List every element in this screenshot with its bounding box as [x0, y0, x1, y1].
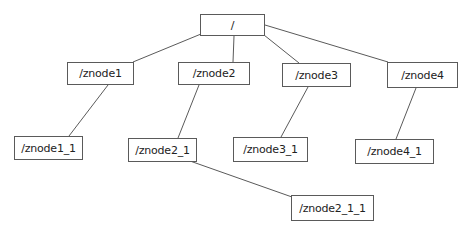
- node-root: /: [200, 14, 265, 36]
- node-label: /znode3: [295, 69, 338, 82]
- edge-znode1-to-znode1_1: [69, 85, 108, 136]
- node-znode2-1-1: /znode2_1_1: [291, 195, 374, 221]
- node-znode2-1: /znode2_1: [128, 138, 197, 162]
- node-label: /znode3_1: [243, 143, 298, 156]
- node-label: /znode1: [79, 67, 122, 80]
- znode-tree-diagram: / /znode1 /znode2 /znode3 /znode4 /znode…: [0, 0, 463, 232]
- edge-root-to-znode4: [265, 25, 388, 62]
- node-label: /znode1_1: [21, 142, 76, 155]
- node-znode4-1: /znode4_1: [355, 139, 434, 164]
- node-label: /znode4: [401, 69, 444, 82]
- node-label: /znode2_1: [135, 144, 190, 157]
- node-znode2: /znode2: [178, 62, 250, 85]
- node-znode1: /znode1: [67, 62, 134, 85]
- node-znode4: /znode4: [387, 62, 458, 88]
- edge-root-to-znode2: [233, 36, 234, 62]
- node-label: /znode2: [193, 67, 236, 80]
- node-label: /znode4_1: [367, 145, 422, 158]
- node-label: /: [231, 19, 235, 32]
- edge-znode2_1-to-znode2_1_1: [190, 161, 292, 197]
- node-znode1-1: /znode1_1: [14, 136, 83, 160]
- node-znode3: /znode3: [282, 63, 351, 87]
- node-znode3-1: /znode3_1: [233, 137, 308, 162]
- edge-znode3-to-znode3_1: [281, 87, 308, 137]
- edge-root-to-znode3: [264, 35, 299, 63]
- edge-root-to-znode1: [133, 34, 201, 62]
- node-label: /znode2_1_1: [299, 202, 366, 215]
- edge-znode4-to-znode4_1: [396, 88, 416, 139]
- edge-znode2-to-znode2_1: [178, 85, 199, 138]
